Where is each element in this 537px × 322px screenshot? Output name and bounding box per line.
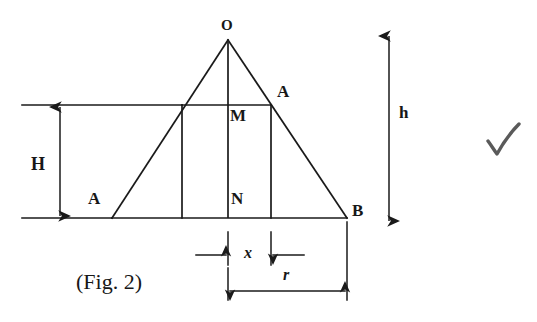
- label-cylinder-bottom-center-n: N: [231, 190, 243, 207]
- label-dimension-r: r: [283, 267, 289, 283]
- dimension-r: [228, 222, 347, 300]
- figure-caption: (Fig. 2): [76, 271, 142, 293]
- cone-triangle: [112, 40, 347, 218]
- label-cylinder-top-right-a: A: [277, 83, 289, 100]
- label-base-right-b: B: [352, 202, 363, 219]
- label-apex-o: O: [221, 18, 233, 33]
- cone-left-edge-line: [112, 40, 228, 218]
- cone-right-edge-line: [228, 40, 347, 218]
- label-dimension-x: x: [244, 245, 252, 261]
- label-base-left-a: A: [88, 190, 100, 207]
- label-cylinder-top-center-m: M: [230, 107, 246, 124]
- label-dimension-H: H: [31, 155, 45, 173]
- figure-container: O A B A M N H h x r (Fig. 2): [0, 0, 537, 322]
- height-reference-lines: [22, 105, 182, 218]
- inscribed-cylinder-rectangle: [182, 105, 271, 218]
- check-mark-icon: [488, 124, 519, 154]
- label-dimension-h: h: [399, 104, 408, 121]
